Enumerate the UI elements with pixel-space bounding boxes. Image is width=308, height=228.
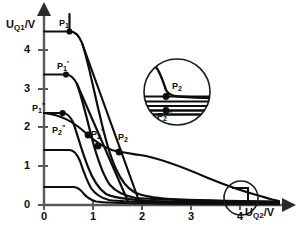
inset-point-label-P2ppp-sup: ''' bbox=[167, 109, 172, 118]
point-label-P1-doubleprime: P1'' bbox=[32, 104, 45, 113]
point-P2p bbox=[95, 143, 102, 150]
point-P2 bbox=[116, 149, 123, 156]
x-axis-label-main: U bbox=[245, 206, 253, 218]
point-label-P1pp-sup: '' bbox=[42, 101, 45, 110]
point-P1 bbox=[66, 28, 72, 34]
inset-point-label-P2: P2 bbox=[172, 82, 182, 91]
point-label-P2-sub: 2 bbox=[124, 136, 128, 143]
steep-line-1 bbox=[82, 43, 139, 201]
y-tick-label-1: 1 bbox=[24, 160, 30, 171]
point-label-P2p-sup: ' bbox=[101, 127, 103, 136]
x-tick-label-3: 3 bbox=[188, 211, 194, 222]
inset-point-label-P2-sub: 2 bbox=[178, 85, 182, 92]
y-axis-label-unit: /V bbox=[25, 18, 35, 30]
point-label-P1p-sup: ' bbox=[67, 59, 69, 68]
y-tick-label-4: 4 bbox=[24, 44, 30, 55]
point-label-P1: P1 bbox=[59, 19, 69, 28]
inset-point-label-P2-tripleprime: P2''' bbox=[157, 112, 172, 121]
x-axis-label-sub: Q2 bbox=[253, 211, 264, 220]
chart-canvas bbox=[0, 0, 308, 228]
y-tick-label-0: 0 bbox=[24, 199, 30, 210]
point-label-P2: P2 bbox=[118, 133, 128, 142]
point-label-P1-sub: 1 bbox=[65, 22, 69, 29]
x-axis-label-unit: /V bbox=[264, 206, 274, 218]
point-label-P1-prime: P1' bbox=[57, 62, 69, 71]
curve-4 bbox=[44, 150, 279, 203]
x-tick-label-1: 1 bbox=[90, 211, 96, 222]
point-label-P2pp-sup: '' bbox=[62, 123, 65, 132]
point-label-P2-prime: P2' bbox=[91, 130, 103, 139]
chart-figure: 0 1 2 3 4 0 1 2 3 4 UQ1/V UQ2/V P1 P1' P… bbox=[0, 0, 308, 228]
point-P1p bbox=[63, 71, 69, 77]
y-tick-label-2: 2 bbox=[24, 121, 30, 132]
y-axis-label-main: U bbox=[6, 18, 14, 30]
point-label-P2-doubleprime: P2'' bbox=[52, 126, 65, 135]
x-tick-label-4: 4 bbox=[237, 211, 243, 222]
x-axis-label: UQ2/V bbox=[245, 207, 274, 218]
y-tick-label-3: 3 bbox=[24, 83, 30, 94]
y-axis-label: UQ1/V bbox=[6, 19, 35, 30]
point-P1pp bbox=[60, 110, 66, 116]
y-axis-label-sub: Q1 bbox=[14, 23, 25, 32]
x-tick-label-0: 0 bbox=[41, 211, 47, 222]
x-tick-label-2: 2 bbox=[139, 211, 145, 222]
